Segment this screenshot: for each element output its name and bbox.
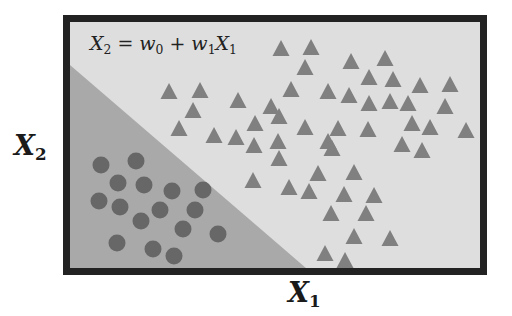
circle-point: [136, 177, 153, 194]
circle-point: [109, 235, 126, 252]
eq-x1-sub: 1: [229, 43, 237, 57]
circle-point: [152, 202, 169, 219]
eq-w1-var: w: [191, 32, 207, 54]
eq-lhs-var: X: [90, 32, 104, 54]
circle-point: [166, 248, 183, 265]
x-axis-label: X1: [288, 277, 321, 311]
y-axis-sub: 2: [35, 144, 47, 164]
circle-point: [110, 175, 127, 192]
eq-equals: =: [117, 32, 133, 54]
eq-w0-var: w: [139, 32, 155, 54]
eq-w0-sub: 0: [156, 43, 164, 57]
circle-point: [195, 182, 212, 199]
y-axis-label: X2: [14, 130, 47, 164]
eq-lhs-sub: 2: [104, 43, 112, 57]
circle-point: [175, 221, 192, 238]
circle-point: [210, 226, 227, 243]
boundary-equation: X2=w0+w1X1: [90, 32, 237, 57]
classification-plot: [0, 0, 512, 316]
diagram-canvas: X2=w0+w1X1 X2 X1: [0, 0, 512, 316]
eq-plus: +: [169, 32, 185, 54]
circle-point: [145, 241, 162, 258]
circle-point: [187, 202, 204, 219]
circle-point: [164, 183, 181, 200]
x-axis-sub: 1: [309, 291, 321, 311]
eq-x1-var: X: [215, 32, 229, 54]
y-axis-var: X: [14, 130, 35, 161]
x-axis-var: X: [288, 277, 309, 308]
circle-point: [91, 193, 108, 210]
circle-point: [128, 153, 145, 170]
circle-point: [93, 157, 110, 174]
circle-point: [112, 199, 129, 216]
circle-point: [133, 213, 150, 230]
